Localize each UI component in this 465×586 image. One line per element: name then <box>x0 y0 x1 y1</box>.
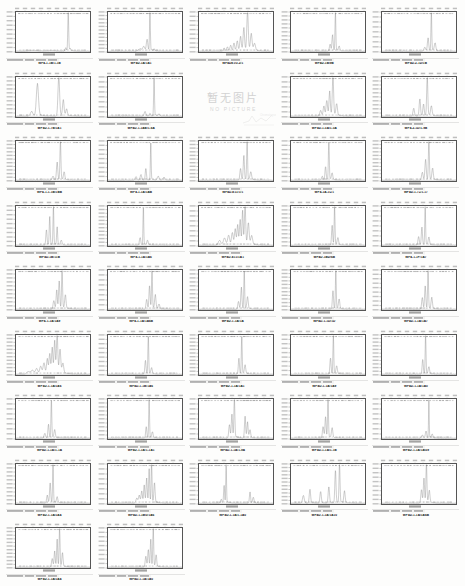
plot-frame[interactable] <box>107 11 183 53</box>
chromatogram-panel[interactable]: WP4-2-1D/1-9B <box>370 71 462 136</box>
sample-id-label: WP4D-1-1BG/1A6 <box>128 514 154 517</box>
chromatogram-panel[interactable]: WP4-1A-1L/1 <box>279 135 371 200</box>
plot-frame[interactable] <box>290 205 366 247</box>
chromatogram-panel[interactable]: WP4D-1-1BG/1A6 <box>96 458 188 523</box>
plot-frame[interactable] <box>15 398 91 440</box>
chromatogram-trace <box>199 141 273 181</box>
plot-frame[interactable] <box>198 269 274 311</box>
chromatogram-row: WP4-1-1-1B/1BBWP4-1-1A/1ABWP4D-E11/1/1WP… <box>4 135 462 200</box>
plot-frame[interactable] <box>15 527 91 569</box>
sample-id-label: WP4D-E11/1A1 <box>221 256 243 259</box>
chromatogram-panel[interactable]: WP4-1-1A/1A9 <box>4 264 96 329</box>
y-axis-ticks <box>372 76 381 118</box>
plot-frame[interactable] <box>381 463 457 505</box>
x-axis-label <box>15 53 91 57</box>
plot-frame[interactable] <box>290 463 366 505</box>
chromatogram-panel[interactable]: WP4D-1-1D/1D <box>279 264 371 329</box>
plot-frame[interactable] <box>15 334 91 376</box>
plot-frame[interactable] <box>107 334 183 376</box>
chromatogram-panel[interactable]: WP4-1-1F/1A7 <box>370 200 462 265</box>
chromatogram-panel[interactable]: WP4D-1-1A/1A4 <box>4 522 96 586</box>
chromatogram-panel[interactable]: WP4-1-1-1B/1BB <box>4 135 96 200</box>
plot-frame[interactable] <box>381 205 457 247</box>
chromatogram-panel[interactable]: WP4D-1-1A/1A6B <box>370 458 462 523</box>
y-axis-ticks <box>372 11 381 53</box>
chromatogram-panel[interactable]: WP4D-1-7+/1-17 <box>370 135 462 200</box>
plot-frame[interactable] <box>381 398 457 440</box>
plot-frame[interactable] <box>290 269 366 311</box>
y-axis-ticks <box>281 463 290 505</box>
chromatogram-panel[interactable]: WP4D-1-1AB/1-6A <box>96 71 188 136</box>
chromatogram-panel[interactable]: WP4D-1-1A/1A6 <box>4 329 96 394</box>
chromatogram-panel[interactable]: WP4D-E11/1A1 <box>187 200 279 265</box>
plot-frame[interactable] <box>198 463 274 505</box>
plot-frame[interactable] <box>15 269 91 311</box>
chromatogram-panel[interactable]: WP4D-1B/11B <box>4 200 96 265</box>
y-axis-ticks <box>189 398 198 440</box>
chromatogram-panel[interactable]: WP4D-1-1A/1-1B <box>279 393 371 458</box>
chromatogram-panel[interactable]: WP4D-1BD/6B <box>279 200 371 265</box>
plot-frame[interactable] <box>381 76 457 118</box>
chromatogram-panel[interactable]: WP4D-E11/1/1 <box>187 135 279 200</box>
chromatogram-panel[interactable]: WP4-1-1A/1AB <box>96 135 188 200</box>
chromatogram-trace <box>16 77 90 117</box>
plot-frame[interactable] <box>381 140 457 182</box>
plot-frame[interactable] <box>198 11 274 53</box>
plot-frame[interactable] <box>15 76 91 118</box>
plot-frame[interactable] <box>15 463 91 505</box>
x-axis-label <box>198 311 274 315</box>
y-axis-ticks <box>281 334 290 376</box>
plot-frame[interactable] <box>290 140 366 182</box>
chromatogram-panel[interactable]: WP4D-1A/1A1 <box>96 6 188 71</box>
chromatogram-panel[interactable]: WP4D-1-1A/1A4 <box>4 458 96 523</box>
chromatogram-panel[interactable]: WP4-1-1B/1-1B <box>4 6 96 71</box>
plot-frame[interactable] <box>107 269 183 311</box>
y-axis-ticks <box>98 398 107 440</box>
x-axis-label <box>290 440 366 444</box>
chromatogram-panel[interactable]: WP4D-1-1B/1A6 <box>96 329 188 394</box>
chromatogram-panel[interactable]: WP4D-1-1A/1AG9 <box>370 393 462 458</box>
plot-frame[interactable] <box>15 140 91 182</box>
plot-frame[interactable] <box>107 463 183 505</box>
chromatogram-panel[interactable]: WP4D-1-1A/1-1A <box>4 393 96 458</box>
chromatogram-panel[interactable]: WP4D-1-1A/1A9 <box>279 329 371 394</box>
panel-caption: WP4D-1-1BG/1A6 <box>98 514 185 518</box>
chromatogram-panel[interactable]: WP4D-1-1A/1-9A <box>187 393 279 458</box>
plot-frame[interactable] <box>107 527 183 569</box>
chromatogram-panel[interactable]: WP4D-1B/9B <box>279 6 371 71</box>
plot-frame[interactable] <box>290 11 366 53</box>
plot-frame[interactable] <box>290 398 366 440</box>
plot-frame[interactable] <box>198 398 274 440</box>
plot-frame[interactable] <box>290 76 366 118</box>
panel-caption: WP4D-1-1A/1A4 <box>6 514 93 518</box>
chromatogram-panel[interactable]: WP4D-1-5A/1-5A <box>279 71 371 136</box>
chromatogram-panel[interactable]: WP4DE1G-2/1 <box>187 6 279 71</box>
panel-body: WP4-1-1B/1-1B <box>6 7 93 69</box>
chromatogram-panel[interactable]: WP4D-1-1A/1-1A0 <box>187 458 279 523</box>
chromatogram-panel[interactable]: WP4D-1-1A/1A0 <box>370 329 462 394</box>
sample-id-label: WP4D-1-5A/1-5A <box>312 127 337 130</box>
chromatogram-panel[interactable]: WP4D-1-1A/1A <box>187 264 279 329</box>
chromatogram-panel[interactable]: WP4D-1-1A/1A1 <box>187 329 279 394</box>
chromatogram-panel[interactable]: WP4-1-1A/1A6B <box>96 264 188 329</box>
plot-frame[interactable] <box>198 205 274 247</box>
chromatogram-panel[interactable]: WP4D-1-1A/1-1A1 <box>96 393 188 458</box>
plot-frame[interactable] <box>15 205 91 247</box>
plot-frame[interactable] <box>381 334 457 376</box>
plot-frame[interactable] <box>381 269 457 311</box>
plot-frame[interactable] <box>15 11 91 53</box>
plot-frame[interactable] <box>107 140 183 182</box>
plot-frame[interactable] <box>107 76 183 118</box>
chromatogram-panel[interactable]: WP4-1-1A/1A6 <box>96 200 188 265</box>
plot-frame[interactable] <box>198 140 274 182</box>
plot-frame[interactable] <box>107 398 183 440</box>
chromatogram-panel[interactable]: WP4D-1-1A/1A0 <box>96 522 188 586</box>
chromatogram-panel[interactable]: WP4D-1-1A/1A7 <box>370 264 462 329</box>
plot-frame[interactable] <box>381 11 457 53</box>
plot-frame[interactable] <box>290 334 366 376</box>
chromatogram-panel[interactable]: WP4D-1-7B/1A1 <box>4 71 96 136</box>
chromatogram-panel[interactable]: WP4D-2-1D/1B <box>370 6 462 71</box>
plot-frame[interactable] <box>107 205 183 247</box>
chromatogram-panel[interactable]: WP4D-1-1A/1A10 <box>279 458 371 523</box>
plot-frame[interactable] <box>198 334 274 376</box>
